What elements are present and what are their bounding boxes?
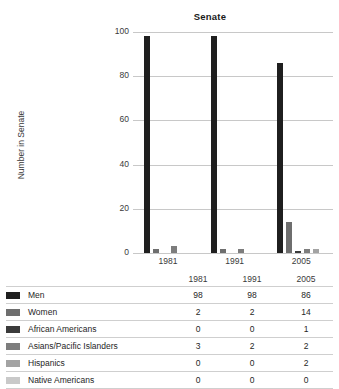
swatch-cell (6, 286, 28, 303)
bar-women-1981 (153, 249, 159, 253)
bars (211, 32, 262, 253)
cell-value-1991: 0 (225, 371, 279, 388)
swatch-cell (6, 337, 28, 354)
legend-data-table: 198119912005 Men989886Women2214African A… (6, 272, 333, 389)
swatch-cell (6, 303, 28, 320)
x-tick-label-2005: 2005 (278, 256, 324, 266)
cell-value-1981: 0 (171, 371, 225, 388)
table-header-label-spacer (28, 272, 171, 286)
cell-value-2005: 14 (279, 303, 333, 320)
y-tick-label-0: 0 (93, 248, 129, 257)
cell-value-2005: 1 (279, 320, 333, 337)
swatch-asians-pacific-icon (6, 343, 20, 350)
chart-title: Senate (150, 11, 270, 22)
series-label: Native Americans (28, 371, 171, 388)
senate-bar-chart: Senate Number in Senate 020406080100 198… (0, 0, 339, 272)
cell-value-1991: 0 (225, 354, 279, 371)
table-row: Asians/Pacific Islanders322 (6, 337, 333, 354)
table-row: Men989886 (6, 286, 333, 303)
bar-african-americans-2005 (295, 251, 301, 253)
x-tick-label-1991: 1991 (212, 256, 258, 266)
cell-value-2005: 2 (279, 337, 333, 354)
swatch-african-americans-icon (6, 326, 20, 333)
swatch-cell (6, 354, 28, 371)
cell-value-1991: 2 (225, 303, 279, 320)
swatch-native-americans-icon (6, 377, 20, 384)
table-header-row: 198119912005 (6, 272, 333, 286)
y-tick-label-20: 20 (93, 204, 129, 213)
series-label: Hispanics (28, 354, 171, 371)
series-label: Men (28, 286, 171, 303)
cell-value-1981: 0 (171, 320, 225, 337)
table-row: Native Americans000 (6, 371, 333, 388)
bar-women-1991 (220, 249, 226, 253)
cell-value-1991: 0 (225, 320, 279, 337)
bar-men-2005 (277, 63, 283, 253)
bars (277, 32, 328, 253)
cell-value-1981: 98 (171, 286, 225, 303)
table-column-header-2005: 2005 (279, 272, 333, 286)
y-tick-label-80: 80 (93, 71, 129, 80)
y-tick-label-40: 40 (93, 160, 129, 169)
y-axis-title: Number in Senate (16, 75, 26, 215)
cell-value-2005: 0 (279, 371, 333, 388)
plot-area (133, 32, 333, 253)
bars (144, 32, 195, 253)
y-tick-label-100: 100 (93, 27, 129, 36)
swatch-men-icon (6, 292, 20, 299)
swatch-cell (6, 371, 28, 388)
cell-value-2005: 2 (279, 354, 333, 371)
gridline-0 (133, 253, 333, 254)
bar-hispanics-2005 (313, 249, 319, 253)
chart-page: Senate Number in Senate 020406080100 198… (0, 0, 339, 389)
swatch-cell (6, 320, 28, 337)
series-label: Women (28, 303, 171, 320)
table-header-swatch-spacer (6, 272, 28, 286)
series-label: African Americans (28, 320, 171, 337)
bar-men-1981 (144, 36, 150, 253)
cell-value-1981: 0 (171, 354, 225, 371)
bar-asians-pacific-islanders-1991 (238, 249, 244, 253)
table-row: African Americans001 (6, 320, 333, 337)
table-header: 198119912005 (6, 272, 333, 286)
x-tick-label-1981: 1981 (145, 256, 191, 266)
table-row: Hispanics002 (6, 354, 333, 371)
cell-value-1981: 2 (171, 303, 225, 320)
table-row: Women2214 (6, 303, 333, 320)
table-column-header-1981: 1981 (171, 272, 225, 286)
table-column-header-1991: 1991 (225, 272, 279, 286)
y-tick-label-60: 60 (93, 115, 129, 124)
bar-women-2005 (286, 222, 292, 253)
bar-men-1991 (211, 36, 217, 253)
cell-value-1981: 3 (171, 337, 225, 354)
cell-value-1991: 2 (225, 337, 279, 354)
swatch-hispanics-icon (6, 360, 20, 367)
series-label: Asians/Pacific Islanders (28, 337, 171, 354)
cell-value-2005: 86 (279, 286, 333, 303)
table-body: Men989886Women2214African Americans001As… (6, 286, 333, 389)
swatch-women-icon (6, 309, 20, 316)
bar-asians-pacific-islanders-2005 (304, 249, 310, 253)
cell-value-1991: 98 (225, 286, 279, 303)
bar-asians-pacific-islanders-1981 (171, 246, 177, 253)
